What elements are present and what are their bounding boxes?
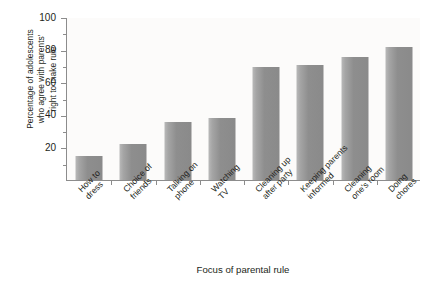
bar-chart-figure: Percentage of adolescents who agree with… bbox=[0, 0, 437, 289]
x-axis-title: Focus of parental rule bbox=[66, 264, 420, 275]
y-tick-label-40: 40 bbox=[26, 110, 56, 120]
x-axis-category-labels: How todress Choice offriends Talking onp… bbox=[66, 181, 420, 255]
bar-slot-0 bbox=[67, 18, 111, 180]
y-tick-label-100: 100 bbox=[26, 13, 56, 23]
y-tick-label-20: 20 bbox=[26, 143, 56, 153]
y-tick-label-60: 60 bbox=[26, 78, 56, 88]
y-tick-label-80: 80 bbox=[26, 45, 56, 55]
